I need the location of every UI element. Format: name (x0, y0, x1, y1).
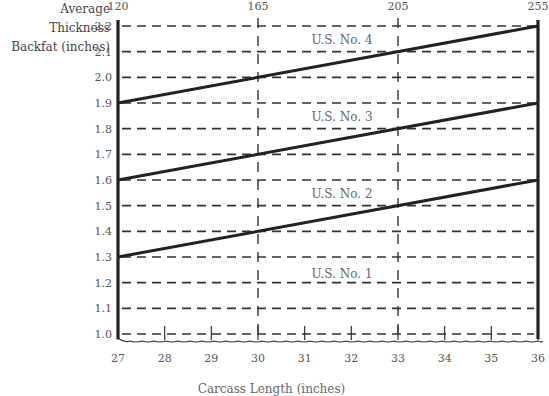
top-axis-tick-label: 165 (248, 0, 269, 13)
x-tick-label: 34 (438, 352, 452, 365)
x-tick-label: 28 (158, 352, 172, 365)
grade-label: U.S. No. 2 (311, 187, 372, 201)
x-tick-label: 36 (531, 352, 545, 365)
y-tick-label: 1.4 (80, 225, 112, 238)
grade-label: U.S. No. 4 (311, 33, 372, 47)
y-tick-label: 2.0 (80, 71, 112, 84)
x-tick-label: 32 (344, 352, 358, 365)
y-tick-label: 1.2 (80, 276, 112, 289)
x-tick-label: 35 (484, 352, 498, 365)
y-tick-label: 1.3 (80, 251, 112, 264)
x-tick-label: 33 (391, 352, 405, 365)
grade-label: U.S. No. 3 (311, 110, 372, 124)
y-tick-label: 1.9 (80, 97, 112, 110)
x-tick-label: 30 (251, 352, 265, 365)
y-tick-label: 1.6 (80, 174, 112, 187)
x-tick-label: 29 (204, 352, 218, 365)
y-tick-label: 1.1 (80, 302, 112, 315)
top-axis-tick-label: 255 (528, 0, 549, 13)
x-tick-label: 27 (111, 352, 125, 365)
top-axis-tick-label: 205 (388, 0, 409, 13)
grade-label: U.S. No. 1 (311, 267, 372, 281)
y-tick-label: 2.1 (80, 45, 112, 58)
x-axis-title: Carcass Length (inches) (0, 382, 543, 396)
y-tick-label: 1.7 (80, 148, 112, 161)
y-tick-label: 2.2 (80, 20, 112, 33)
y-tick-label: 1.8 (80, 122, 112, 135)
wavy-baseline (118, 338, 543, 342)
top-axis-tick-label: 120 (108, 0, 129, 13)
y-tick-label: 1.5 (80, 199, 112, 212)
y-tick-label: 1.0 (80, 328, 112, 341)
x-tick-label: 31 (298, 352, 312, 365)
